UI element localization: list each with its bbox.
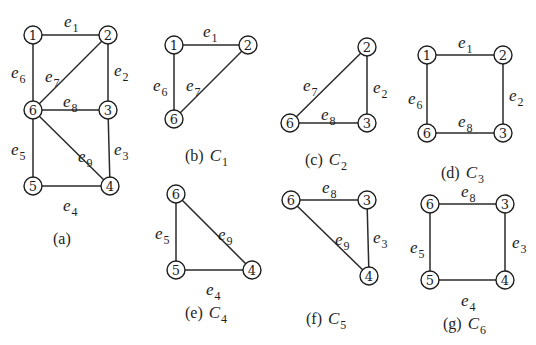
edge-label-e7: e7: [186, 76, 201, 99]
vertex-label: 2: [363, 40, 371, 55]
edge-label-e4: e4: [461, 291, 476, 314]
edge-label-e6: e6: [11, 63, 26, 86]
edge-label-e6: e6: [153, 76, 168, 99]
edge-label-e4: e4: [206, 280, 221, 303]
vertex-label: 4: [248, 263, 256, 278]
subfigure-a: e1e2e3e4e5e6e7e8e9126354(a): [11, 12, 129, 248]
edge-e9: [291, 200, 369, 276]
edge-label-e3: e3: [373, 228, 388, 251]
edge-label-e8: e8: [322, 178, 337, 201]
vertex-label: 4: [106, 179, 114, 194]
vertex-6: 6: [281, 114, 299, 132]
edge-label-e8: e8: [63, 92, 78, 115]
graph-cycles-figure: e1e2e3e4e5e6e7e8e9126354(a)e1e6e7126(b)C…: [0, 0, 536, 345]
edge-label-e3: e3: [114, 140, 129, 163]
edge-label-e1: e1: [64, 12, 79, 35]
vertex-label: 2: [244, 38, 252, 53]
edge-label-e7: e7: [303, 76, 318, 99]
vertex-label: 6: [170, 112, 178, 127]
vertex-label: 3: [499, 126, 507, 141]
caption-f: (f)C5: [306, 309, 346, 332]
vertex-label: 6: [426, 197, 434, 212]
edge-label-e4: e4: [63, 196, 78, 219]
edge-label-e5: e5: [11, 140, 26, 163]
vertex-6: 6: [165, 110, 183, 128]
edge-label-e5: e5: [410, 238, 425, 261]
vertex-2: 2: [239, 36, 257, 54]
edge-label-e3: e3: [512, 233, 527, 256]
subfigure-b: e1e6e7126(b)C1: [153, 22, 257, 169]
vertex-label: 3: [363, 116, 371, 131]
subfigure-c: e2e7e8263(c)C2: [281, 38, 388, 173]
vertex-label: 4: [501, 273, 509, 288]
vertex-label: 6: [423, 126, 431, 141]
vertex-4: 4: [360, 267, 378, 285]
vertex-6: 6: [282, 191, 300, 209]
caption-c: (c)C2: [305, 150, 347, 173]
vertex-label: 3: [104, 103, 112, 118]
vertex-5: 5: [421, 271, 439, 289]
vertex-4: 4: [101, 177, 119, 195]
edge-e9: [33, 110, 110, 186]
edge-e3: [108, 110, 110, 186]
vertex-label: 3: [501, 197, 509, 212]
vertex-5: 5: [24, 177, 42, 195]
edge-label-e8: e8: [458, 112, 473, 135]
vertex-label: 6: [172, 187, 180, 202]
vertex-1: 1: [24, 26, 42, 44]
edge-label-e5: e5: [155, 224, 170, 247]
vertex-label: 5: [172, 263, 180, 278]
vertex-label: 2: [104, 28, 112, 43]
caption-a: (a): [53, 230, 71, 248]
vertex-label: 5: [29, 179, 37, 194]
vertex-6: 6: [418, 124, 436, 142]
subfigure-f: e8e3e9634(f)C5: [282, 178, 388, 332]
vertex-4: 4: [496, 271, 514, 289]
caption-e: (e)C4: [185, 303, 227, 326]
edge-e3: [367, 200, 369, 276]
vertex-5: 5: [167, 261, 185, 279]
edge-label-e1: e1: [203, 22, 218, 45]
edge-e9: [176, 194, 252, 270]
vertex-3: 3: [99, 101, 117, 119]
vertex-6: 6: [421, 195, 439, 213]
edge-label-e8: e8: [461, 182, 476, 205]
vertex-3: 3: [358, 114, 376, 132]
vertex-6: 6: [24, 101, 42, 119]
vertex-4: 4: [243, 261, 261, 279]
edge-label-e2: e2: [373, 78, 388, 101]
vertex-label: 6: [286, 116, 294, 131]
edge-label-e1: e1: [458, 33, 473, 56]
caption-b: (b)C1: [185, 146, 228, 169]
vertex-label: 1: [423, 48, 431, 63]
edge-label-e7: e7: [45, 67, 60, 90]
vertex-3: 3: [496, 195, 514, 213]
vertex-1: 1: [165, 36, 183, 54]
vertex-label: 1: [29, 28, 37, 43]
edge-label-e2: e2: [114, 61, 129, 84]
edge-label-e6: e6: [408, 89, 423, 112]
subfigure-g: e8e3e5e46354(g)C6: [410, 182, 527, 337]
caption-g: (g)C6: [443, 314, 486, 337]
vertex-label: 6: [287, 193, 295, 208]
edge-label-e8: e8: [321, 105, 336, 128]
vertex-2: 2: [358, 38, 376, 56]
vertex-3: 3: [358, 191, 376, 209]
subfigure-d: e1e2e6e81263(d)C3: [408, 33, 524, 186]
subfigure-e: e5e9e4654(e)C4: [155, 185, 261, 326]
edge-label-e2: e2: [509, 86, 524, 109]
vertex-label: 5: [426, 273, 434, 288]
subfigure-group: e1e2e3e4e5e6e7e8e9126354(a)e1e6e7126(b)C…: [11, 12, 527, 337]
vertex-label: 6: [29, 103, 37, 118]
vertex-1: 1: [418, 46, 436, 64]
vertex-6: 6: [167, 185, 185, 203]
vertex-label: 1: [170, 38, 178, 53]
vertex-2: 2: [99, 26, 117, 44]
vertex-label: 4: [365, 269, 373, 284]
vertex-label: 2: [499, 48, 507, 63]
edge-label-e9: e9: [218, 225, 233, 248]
vertex-3: 3: [494, 124, 512, 142]
vertex-2: 2: [494, 46, 512, 64]
edge-label-e9: e9: [78, 147, 93, 170]
vertex-label: 3: [363, 193, 371, 208]
